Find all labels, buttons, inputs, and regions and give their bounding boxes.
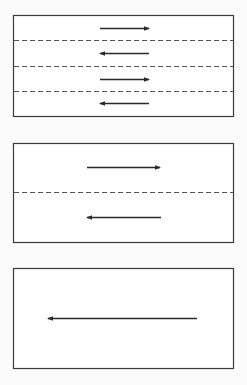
one-lane-panel bbox=[14, 269, 234, 369]
four-lane-panel bbox=[14, 16, 234, 117]
lane-direction-diagram bbox=[0, 0, 247, 385]
two-lane-panel bbox=[14, 144, 234, 243]
